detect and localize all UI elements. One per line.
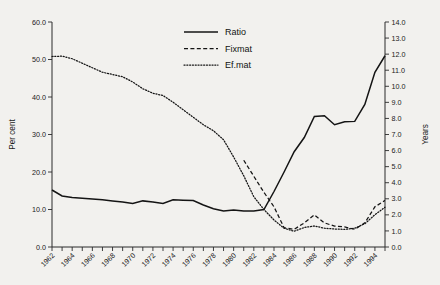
line-chart: 0.010.020.030.040.050.060.0 0.01.02.03.0…: [0, 0, 440, 285]
y-tick-label: 30.0: [32, 130, 46, 139]
y-axis-title: Per cent: [8, 119, 17, 150]
plot-background: [0, 0, 440, 285]
y2-tick-label: 11.0: [392, 66, 405, 75]
y2-tick-label: 6.0: [392, 146, 402, 155]
legend-label-fixmat: Fixmat: [225, 44, 252, 54]
y-tick-label: 10.0: [32, 205, 46, 214]
y2-tick-label: 13.0: [392, 34, 406, 43]
y2-tick-label: 12.0: [392, 50, 406, 59]
y2-tick-label: 5.0: [392, 162, 402, 171]
y2-tick-label: 1.0: [392, 227, 402, 236]
y2-tick-label: 7.0: [392, 130, 402, 139]
y2-tick-label: 2.0: [392, 210, 402, 219]
y-tick-label: 40.0: [32, 93, 46, 102]
legend-label-ef-mat: Ef.mat: [225, 60, 252, 70]
chart-container: 0.010.020.030.040.050.060.0 0.01.02.03.0…: [0, 0, 440, 285]
y-tick-label: 20.0: [32, 168, 46, 177]
y2-tick-label: 9.0: [392, 98, 402, 107]
legend-label-ratio: Ratio: [225, 27, 246, 37]
y2-tick-label: 3.0: [392, 194, 402, 203]
y2-tick-label: 14.0: [392, 18, 406, 27]
y2-tick-label: 4.0: [392, 178, 402, 187]
y2-tick-label: 8.0: [392, 114, 402, 123]
y2-axis-title: Years: [421, 124, 430, 145]
y-tick-label: 60.0: [32, 18, 46, 27]
y-tick-label: 50.0: [32, 55, 46, 64]
y2-tick-label: 10.0: [392, 82, 406, 91]
y-tick-label: 0.0: [36, 243, 46, 252]
y2-tick-label: 0.0: [392, 243, 402, 252]
